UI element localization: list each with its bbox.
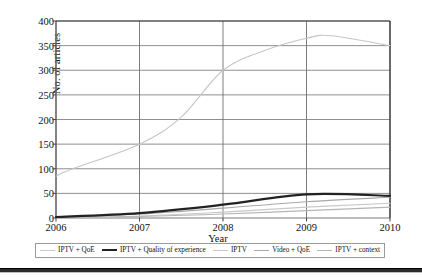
legend-label: IPTV + Quality of experience bbox=[120, 247, 206, 254]
legend-label: Video + QoE bbox=[272, 247, 310, 254]
legend-item[interactable]: Video + QoE bbox=[254, 247, 310, 254]
x-axis-tick-label: 2009 bbox=[296, 222, 317, 233]
legend-item[interactable]: IPTV + Quality of experience bbox=[102, 247, 206, 254]
x-axis-tick-label: 2008 bbox=[213, 222, 234, 233]
legend-line-swatch bbox=[213, 250, 228, 251]
legend-line-swatch bbox=[102, 249, 117, 251]
legend-label: IPTV + QoE bbox=[58, 247, 95, 254]
chart-legend: IPTV + QoEIPTV + Quality of experienceIP… bbox=[35, 243, 385, 258]
legend-label: IPTV + context bbox=[335, 247, 380, 254]
legend-label: IPTV bbox=[231, 247, 247, 254]
legend-line-swatch bbox=[254, 250, 269, 251]
legend-item[interactable]: IPTV + QoE bbox=[40, 247, 95, 254]
chart-figure: No. of articles 050100150200250300350400… bbox=[0, 0, 422, 277]
x-axis-tick-label: 2007 bbox=[129, 222, 150, 233]
legend-item[interactable]: IPTV bbox=[213, 247, 247, 254]
bottom-rule-secondary bbox=[0, 272, 422, 273]
x-axis-tick-label: 2006 bbox=[46, 222, 67, 233]
legend-line-swatch bbox=[317, 250, 332, 251]
legend-item[interactable]: IPTV + context bbox=[317, 247, 380, 254]
legend-line-swatch bbox=[40, 250, 55, 251]
x-axis-tick-label: 2010 bbox=[380, 222, 401, 233]
